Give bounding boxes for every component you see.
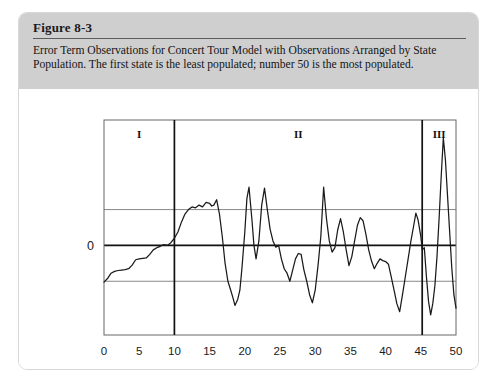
x-tick-label: 25 xyxy=(274,345,287,357)
y-axis-tick-labels: 0 xyxy=(87,239,94,253)
error-term-line-chart: IIIIII 05101520253035404550 0 xyxy=(19,89,479,370)
region-label-ii: II xyxy=(294,128,303,140)
x-tick-label: 45 xyxy=(414,345,427,357)
x-tick-label: 50 xyxy=(450,345,463,357)
x-tick-label: 5 xyxy=(136,345,142,357)
x-tick-label: 35 xyxy=(344,345,357,357)
x-tick-label: 20 xyxy=(238,345,251,357)
region-labels-group: IIIIII xyxy=(137,128,445,140)
plot-frame xyxy=(104,120,456,335)
x-tick-label: 0 xyxy=(101,345,107,357)
y-tick-label: 0 xyxy=(87,239,94,253)
region-dividers-group xyxy=(174,120,422,335)
x-axis-tick-labels: 05101520253035404550 xyxy=(101,345,463,357)
figure-caption: Error Term Observations for Concert Tour… xyxy=(33,44,466,72)
x-tick-label: 40 xyxy=(379,345,392,357)
series-line xyxy=(104,138,456,315)
gridlines-group xyxy=(104,210,456,282)
plot-area-card: IIIIII 05101520253035404550 0 xyxy=(19,89,479,370)
figure-card: Figure 8-3 Error Term Observations for C… xyxy=(18,12,479,370)
region-label-i: I xyxy=(137,128,141,140)
title-divider-rule xyxy=(33,38,466,39)
plot-frame-rect xyxy=(104,120,456,335)
x-tick-label: 30 xyxy=(309,345,322,357)
x-tick-label: 15 xyxy=(203,345,216,357)
figure-header-band: Figure 8-3 Error Term Observations for C… xyxy=(19,13,479,89)
x-tick-label: 10 xyxy=(168,345,181,357)
figure-title: Figure 8-3 xyxy=(33,20,466,38)
region-label-iii: III xyxy=(433,128,446,140)
series-line-group xyxy=(104,138,456,315)
